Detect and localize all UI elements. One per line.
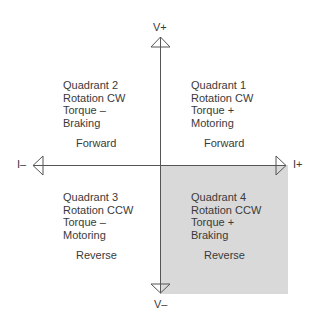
quadrant-4-torque: Torque + — [191, 216, 261, 229]
quadrant-4-rotation: Rotation CCW — [191, 204, 261, 217]
quadrant-1-mode: Motoring — [191, 117, 253, 130]
quadrant-1-label: Quadrant 1 Rotation CW Torque + Motoring… — [191, 79, 253, 150]
quadrant-2-torque: Torque – — [63, 104, 125, 117]
quadrant-1-torque: Torque + — [191, 104, 253, 117]
quadrant-2-title: Quadrant 2 — [63, 79, 125, 92]
quadrant-1-direction: Forward — [191, 137, 253, 150]
quadrant-2-rotation: Rotation CW — [63, 92, 125, 105]
quadrant-4-label: Quadrant 4 Rotation CCW Torque + Braking… — [191, 191, 261, 262]
i-plus-label: I+ — [293, 158, 302, 170]
quadrant-2-mode: Braking — [63, 117, 125, 130]
quadrant-3-mode: Motoring — [63, 229, 133, 242]
quadrant-3-label: Quadrant 3 Rotation CCW Torque – Motorin… — [63, 191, 133, 262]
quadrant-3-title: Quadrant 3 — [63, 191, 133, 204]
quadrant-1-rotation: Rotation CW — [191, 92, 253, 105]
quadrant-4-direction: Reverse — [191, 249, 261, 262]
v-minus-label: V– — [154, 298, 167, 310]
quadrant-2-direction: Forward — [63, 137, 125, 150]
quadrant-3-direction: Reverse — [63, 249, 133, 262]
quadrant-1-title: Quadrant 1 — [191, 79, 253, 92]
quadrant-3-rotation: Rotation CCW — [63, 204, 133, 217]
v-plus-label: V+ — [153, 21, 167, 33]
i-minus-label: I– — [17, 158, 26, 170]
quadrant-4-mode: Braking — [191, 229, 261, 242]
axes — [0, 0, 317, 322]
quadrant-4-title: Quadrant 4 — [191, 191, 261, 204]
quadrant-2-label: Quadrant 2 Rotation CW Torque – Braking … — [63, 79, 125, 150]
quadrant-3-torque: Torque – — [63, 216, 133, 229]
